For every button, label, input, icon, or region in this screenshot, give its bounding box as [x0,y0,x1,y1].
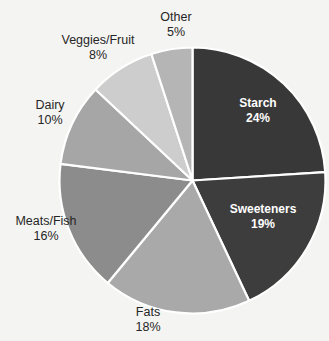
slice-label-fats: Fats 18% [112,305,184,334]
slice-label-fats-value: 18% [112,320,184,335]
slice-label-meats-fish: Meats/Fish 16% [0,214,92,243]
slice-label-starch-value: 24% [216,111,300,126]
pie-slice-layer [60,48,326,314]
slice-label-sweeteners-value: 19% [210,217,316,232]
slice-label-dairy-name: Dairy [14,98,86,113]
slice-label-meats-fish-value: 16% [0,229,92,244]
slice-label-veggies-fruit-name: Veggies/Fruit [44,33,152,48]
slice-label-veggies-fruit-value: 8% [44,48,152,63]
slice-label-veggies-fruit: Veggies/Fruit 8% [44,33,152,62]
slice-label-meats-fish-name: Meats/Fish [0,214,92,229]
slice-label-sweeteners: Sweeteners 19% [210,202,316,231]
slice-label-dairy-value: 10% [14,113,86,128]
slice-label-starch: Starch 24% [216,96,300,125]
slice-label-sweeteners-name: Sweeteners [210,202,316,217]
slice-label-dairy: Dairy 10% [14,98,86,127]
slice-label-other-name: Other [140,10,212,25]
slice-label-starch-name: Starch [216,96,300,111]
slice-label-fats-name: Fats [112,305,184,320]
pie-chart: Other 5% Veggies/Fruit 8% Dairy 10% Meat… [0,0,329,341]
